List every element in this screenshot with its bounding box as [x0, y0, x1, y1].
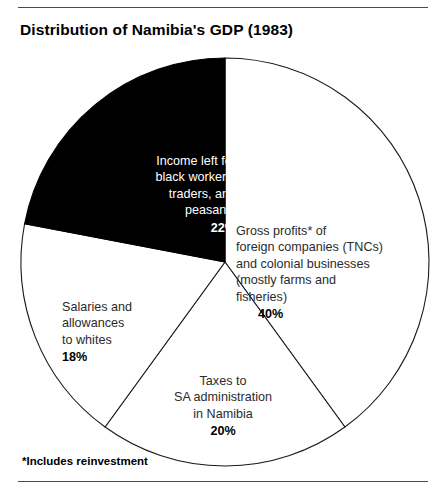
bottom-rule: [18, 481, 428, 482]
slice-label-income-left: Income left for black workers, traders, …: [92, 136, 236, 253]
slice-label-gross-profits-text: Gross profits* of foreign companies (TNC…: [236, 224, 383, 304]
gdp-pie-chart-figure: Distribution of Namibia's GDP (1983) Inc…: [0, 0, 445, 499]
slice-label-taxes: Taxes to SA administration in Namibia 20…: [140, 356, 306, 456]
slice-percent-gross-profits: 40%: [236, 306, 432, 323]
slice-label-taxes-text: Taxes to SA administration in Namibia: [174, 374, 272, 421]
slice-label-salaries-text: Salaries and allowances to whites: [62, 300, 132, 347]
slice-label-gross-profits: Gross profits* of foreign companies (TNC…: [236, 206, 432, 339]
slice-label-income-left-text: Income left for black workers, traders, …: [156, 154, 236, 218]
footnote: *Includes reinvestment: [22, 455, 148, 467]
slice-percent-taxes: 20%: [140, 423, 306, 440]
slice-percent-income-left: 22%: [92, 220, 236, 237]
